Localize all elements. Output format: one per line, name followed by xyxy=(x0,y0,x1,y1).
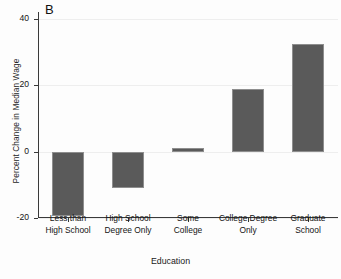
y-tick-label: -20 xyxy=(0,212,29,222)
x-category-label: High SchoolDegree Only xyxy=(98,213,158,236)
bar xyxy=(292,44,323,152)
x-category-label-line: High School xyxy=(38,225,98,237)
bar xyxy=(52,152,83,217)
bar xyxy=(172,148,203,151)
y-tick-label: 40 xyxy=(0,13,29,23)
x-category-label: Less thanHigh School xyxy=(38,213,98,236)
bar xyxy=(232,89,263,151)
gridline xyxy=(39,152,338,153)
bar xyxy=(112,152,143,189)
x-category-label-line: Graduate xyxy=(278,213,338,225)
x-category-label-line: School xyxy=(278,225,338,237)
x-category-label: SomeCollege xyxy=(158,213,218,236)
y-axis-title: Percent Change in Median Wage xyxy=(11,34,21,209)
x-category-label-line: Less than xyxy=(38,213,98,225)
x-axis-title: Education xyxy=(0,256,341,266)
y-tick-label: 0 xyxy=(0,146,29,156)
x-category-label-line: College Degree xyxy=(218,213,278,225)
x-category-label-line: High School xyxy=(98,213,158,225)
y-axis-line xyxy=(38,12,39,218)
plot-area: B 40200-20 xyxy=(38,12,338,218)
y-tick-label: 20 xyxy=(0,79,29,89)
panel-label: B xyxy=(45,2,54,17)
x-category-label: College DegreeOnly xyxy=(218,213,278,236)
x-category-label-line: Degree Only xyxy=(98,225,158,237)
x-category-label-line: Some xyxy=(158,213,218,225)
x-category-label: GraduateSchool xyxy=(278,213,338,236)
x-category-label-line: Only xyxy=(218,225,278,237)
x-category-label-line: College xyxy=(158,225,218,237)
chart-figure: Percent Change in Median Wage B 40200-20… xyxy=(0,0,341,279)
gridline xyxy=(39,19,338,20)
